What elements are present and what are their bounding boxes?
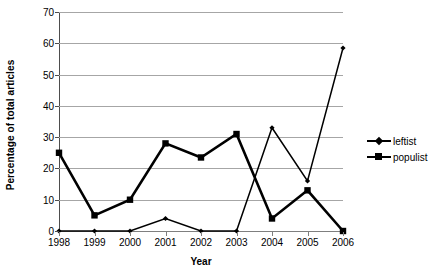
legend-marker-square-icon [375,153,382,160]
y-tickmark [55,75,59,76]
y-tick-label: 0 [24,226,54,237]
y-tickmark [55,137,59,138]
x-tick-label: 2003 [225,237,247,248]
x-tickmark [201,232,202,236]
data-point-leftist [340,45,345,50]
data-point-populist [233,131,239,137]
x-tickmark [308,232,309,236]
x-axis-title: Year [59,256,343,267]
y-tick-label: 10 [24,194,54,205]
data-point-leftist [163,216,168,221]
data-series-layer [59,12,343,231]
y-tick-label: 70 [24,7,54,18]
x-tickmark [130,232,131,236]
chart-legend: leftistpopulist [367,133,441,165]
y-axis-tick-labels: 010203040506070 [24,0,54,240]
y-tickmark [55,106,59,107]
series-line-populist [59,134,343,231]
x-tick-label: 2006 [332,237,354,248]
data-point-populist [162,140,168,146]
legend-item-leftist[interactable]: leftist [367,133,441,149]
data-point-populist [304,187,310,193]
x-tickmark [272,232,273,236]
y-tick-label: 60 [24,38,54,49]
y-tick-label: 30 [24,132,54,143]
legend-swatch-diamond-icon [367,135,391,147]
x-axis-tick-labels: 199819992000200120022003200420052006 [59,237,343,253]
x-tick-label: 2004 [261,237,283,248]
x-tick-label: 2002 [190,237,212,248]
x-tick-label: 1999 [83,237,105,248]
data-point-populist [198,154,204,160]
x-tickmark [343,232,344,236]
legend-swatch-square-icon [367,151,391,163]
x-tick-label: 2005 [296,237,318,248]
data-point-populist [56,150,62,156]
y-tickmark [55,168,59,169]
series-line-leftist [59,48,343,231]
legend-label: populist [391,152,427,163]
y-tickmark [55,200,59,201]
data-point-populist [127,197,133,203]
x-tick-label: 2000 [119,237,141,248]
x-tickmark [59,232,60,236]
line-chart: Percentage of total articles 01020304050… [0,0,441,280]
y-tickmark [55,43,59,44]
x-tick-label: 2001 [154,237,176,248]
data-point-populist [91,212,97,218]
legend-marker-diamond-icon [375,137,383,145]
x-tickmark [237,232,238,236]
y-tick-label: 40 [24,100,54,111]
legend-item-populist[interactable]: populist [367,149,441,165]
legend-label: leftist [391,136,416,147]
x-tickmark [95,232,96,236]
y-axis-title: Percentage of total articles [2,10,20,240]
y-tick-label: 50 [24,69,54,80]
data-point-populist [269,215,275,221]
y-tickmark [55,12,59,13]
x-tickmark [166,232,167,236]
x-tick-label: 1998 [48,237,70,248]
y-tick-label: 20 [24,163,54,174]
plot-area [59,12,343,231]
